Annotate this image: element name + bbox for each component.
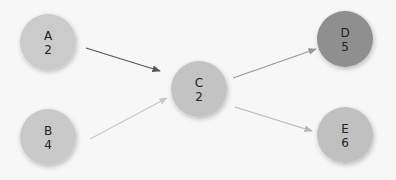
node-b[interactable]: B4 [20,109,76,165]
node-value: 5 [341,40,349,54]
node-value: 4 [44,138,52,152]
node-value: 6 [341,136,349,150]
edge-c-to-e [235,107,312,131]
node-value: 2 [44,43,52,57]
node-d[interactable]: D5 [317,11,373,67]
node-label: D [340,26,349,40]
node-value: 2 [195,90,203,104]
node-e[interactable]: E6 [317,107,373,163]
graph-canvas: A2B4C2D5E6 [0,0,396,180]
edge-a-to-c [86,48,160,71]
node-label: E [341,122,349,136]
edge-c-to-d [233,49,316,78]
node-label: C [195,76,203,90]
node-label: A [44,29,53,43]
node-c[interactable]: C2 [171,61,227,117]
edge-b-to-c [90,98,167,139]
node-a[interactable]: A2 [20,14,76,70]
node-label: B [44,124,52,138]
